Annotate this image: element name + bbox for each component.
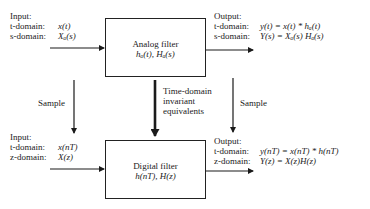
digital-input-z-value: X(z) — [58, 152, 73, 162]
analog-input-s-value: Xₐ(s) — [58, 31, 76, 41]
digital-input-z-label: z-domain: — [10, 152, 47, 162]
analog-filter-box: Analog filter hₐ(t), Hₐ(s) — [105, 18, 206, 77]
analog-output-s-value: Y(s) = Xₐ(s) Hₐ(s) — [260, 31, 324, 41]
analog-input-t-value: x(t) — [58, 21, 71, 31]
digital-input-heading: Input: — [10, 132, 32, 142]
digital-filter-box: Digital filter h(nT), H(z) — [105, 140, 206, 199]
analog-input-s-label: s-domain: — [10, 31, 46, 41]
left-sample-label: Sample — [38, 98, 65, 108]
digital-output-t-label: t-domain: — [214, 146, 249, 156]
digital-output-z-label: z-domain: — [214, 156, 251, 166]
digital-input-t-value: x(nT) — [58, 142, 78, 152]
right-sample-label: Sample — [240, 98, 267, 108]
digital-input-t-label: t-domain: — [10, 142, 45, 152]
digital-filter-title: Digital filter — [106, 161, 205, 171]
digital-output-z-value: Y(z) = X(z)H(z) — [260, 156, 316, 166]
analog-input-heading: Input: — [10, 11, 32, 21]
filter-equivalence-diagram: Input: t-domain: x(t) s-domain: Xₐ(s) An… — [0, 0, 370, 209]
center-label-line1: Time-domain — [163, 86, 212, 96]
analog-filter-title: Analog filter — [106, 39, 205, 49]
center-label-line3: equivalents — [163, 106, 204, 116]
center-label-line2: invariant — [163, 96, 195, 106]
digital-filter-response: h(nT), H(z) — [106, 171, 205, 181]
analog-output-t-label: t-domain: — [214, 21, 249, 31]
analog-output-t-value: y(t) = x(t) * hₐ(t) — [260, 21, 320, 31]
digital-output-heading: Output: — [214, 136, 242, 146]
analog-input-t-label: t-domain: — [10, 21, 45, 31]
analog-output-s-label: s-domain: — [214, 31, 250, 41]
digital-output-t-value: y(nT) = x(nT) * h(nT) — [260, 146, 339, 156]
analog-output-heading: Output: — [214, 11, 242, 21]
analog-filter-response: hₐ(t), Hₐ(s) — [106, 49, 205, 59]
